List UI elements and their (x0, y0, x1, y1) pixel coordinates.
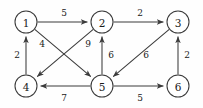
edge-weight-3-to-5: 6 (143, 50, 149, 60)
graph-edge-3-to-5 (113, 29, 169, 76)
edge-weight-6-to-3: 2 (184, 50, 190, 60)
graph-figure: 5222496675 123456 (0, 0, 203, 108)
graph-node-label-3: 3 (175, 17, 182, 29)
edge-weight-5-to-2: 6 (108, 50, 114, 60)
graph-node-label-6: 6 (175, 81, 182, 93)
graph-node-label-4: 4 (23, 81, 30, 93)
edge-weight-1-to-2: 5 (61, 8, 67, 18)
graph-canvas: 5222496675 123456 (0, 0, 203, 108)
graph-node-label-5: 5 (99, 81, 106, 93)
edge-weight-4-to-1: 2 (14, 50, 20, 60)
edge-weight-5-to-6: 5 (137, 93, 143, 103)
graph-node-label-1: 1 (23, 17, 30, 29)
edge-weight-1-to-5: 4 (39, 39, 45, 49)
graph-edge-1-to-5 (35, 29, 91, 76)
graph-node-label-2: 2 (99, 17, 106, 29)
edge-weight-2-to-3: 2 (137, 8, 143, 18)
edge-weight-2-to-4: 9 (85, 39, 91, 49)
graph-edge-2-to-4 (37, 29, 93, 76)
edge-weight-5-to-4: 7 (61, 93, 67, 103)
